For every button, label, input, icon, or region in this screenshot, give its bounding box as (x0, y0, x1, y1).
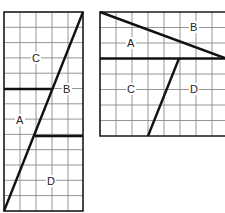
figure-1: C B A D (4, 12, 83, 211)
figure-2-label-d: D (189, 83, 199, 95)
figure-2-label-a: A (126, 37, 136, 49)
svg-text:D: D (190, 83, 198, 95)
figure-1-label-a: A (15, 114, 25, 126)
figure-1-label-c: C (31, 52, 41, 64)
figure-2: B A C D (100, 12, 225, 136)
figure-2-diagonal-line (100, 12, 225, 58)
svg-text:A: A (127, 37, 135, 49)
figure-2-label-c: C (126, 83, 136, 95)
figure-1-label-b: B (62, 83, 72, 95)
figure-2-slanted-divider (148, 59, 179, 137)
svg-text:B: B (63, 83, 70, 95)
figure-2-label-b: B (189, 21, 199, 33)
figure-1-label-d: D (46, 175, 56, 187)
svg-text:D: D (47, 175, 55, 187)
svg-text:A: A (16, 114, 24, 126)
svg-text:C: C (32, 52, 40, 64)
figure-1-diagonal-line (4, 12, 83, 211)
svg-text:C: C (127, 83, 135, 95)
diagram-canvas: C B A D (0, 0, 225, 213)
figure-2-grid (100, 12, 225, 136)
svg-text:B: B (190, 21, 197, 33)
